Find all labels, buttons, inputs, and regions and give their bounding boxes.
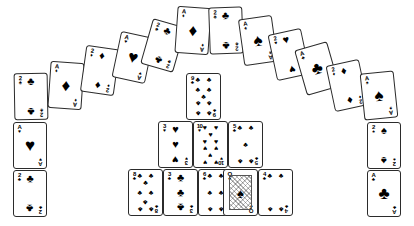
card-pip: ♣ <box>208 206 213 213</box>
card-pip: ♥ <box>208 131 212 138</box>
card-pip: ♦ <box>340 65 348 77</box>
card-board: 2♣2♣♣♣A♦A♦♦2♦2♦♦♦A♥A♥♥2♣2♣♣♣A♦A♦♦2♣2♣♣♣A… <box>0 0 414 226</box>
playing-card[interactable]: 2♣2♣♣♣ <box>13 170 47 217</box>
card-pip-layout: ♠ <box>369 74 389 116</box>
playing-card[interactable]: A♥A♥♥ <box>13 122 47 169</box>
card-pip: ♣ <box>208 189 213 196</box>
card-pip: ♦ <box>61 77 71 95</box>
card-pip: ♣ <box>378 185 389 202</box>
card-pip-layout: ♦ <box>57 64 76 106</box>
playing-card[interactable]: A♦A♦♦ <box>47 61 84 110</box>
card-pip: ♣ <box>268 172 273 179</box>
card-pip: ♥ <box>214 145 218 152</box>
card-pip: ♣ <box>201 93 206 100</box>
card-pip: ♥ <box>172 124 179 135</box>
card-pip-layout: ♣♣ <box>23 76 40 117</box>
card-pip: ♣ <box>208 172 213 179</box>
card-pip-layout: ♥♥♥ <box>167 124 184 165</box>
card-pip: ♣ <box>238 158 243 165</box>
card-pip: ♣ <box>162 25 172 38</box>
card-pip: ♣ <box>238 124 243 131</box>
card-pip: ♥ <box>172 139 179 150</box>
card-pip: ♣ <box>207 110 212 117</box>
playing-card[interactable]: 10♥10♥♥♥♥♥♥♥♥♥♥♥ <box>193 121 228 168</box>
card-pip: ♥ <box>208 152 212 159</box>
card-pip: ♣ <box>149 206 154 213</box>
playing-card[interactable]: A♣A♣♣ <box>367 170 401 217</box>
card-pip: ♥ <box>203 145 207 152</box>
card-pip-layout: ♣♣♣ <box>172 172 189 213</box>
card-pip-layout: ♥♥♥♥♥♥♥♥♥♥ <box>202 124 219 165</box>
card-pip: ♥ <box>214 159 218 166</box>
card-pip: ♥ <box>214 138 218 145</box>
card-pip: ♦ <box>99 50 106 62</box>
card-pip: ♣ <box>207 76 212 83</box>
playing-card[interactable]: 3♥3♥♥♥♥ <box>158 121 193 168</box>
card-suit-icon: ♠ <box>237 185 244 200</box>
card-pip: ♣ <box>26 173 33 184</box>
card-pip: ♣ <box>138 172 143 179</box>
card-pip-layout: ♣♣ <box>22 173 38 214</box>
card-pip-layout: ♣♣♣♣♣ <box>237 124 254 165</box>
playing-card[interactable]: 2♣2♣♣♣ <box>14 73 49 121</box>
card-pip: ♣ <box>249 158 254 165</box>
playing-card[interactable]: A♠A♠♠ <box>360 70 399 120</box>
card-pip-layout: ♥ <box>22 125 38 166</box>
card-pip: ♠ <box>381 155 387 166</box>
card-pip: ♠ <box>252 31 263 49</box>
card-pip-layout: ♣♣♣♣♣♣♣♣♣ <box>195 76 212 117</box>
card-pip: ♣ <box>138 206 143 213</box>
card-pip: ♦ <box>188 22 198 40</box>
card-pip: ♣ <box>268 206 273 213</box>
card-pip: ♣ <box>243 141 248 148</box>
card-pip: ♥ <box>214 124 218 131</box>
card-pip: ♥ <box>203 159 207 166</box>
playing-card[interactable]: A♦A♦♦ <box>174 6 211 55</box>
card-pip: ♣ <box>207 86 212 93</box>
card-pip-layout: ♠ <box>247 19 269 62</box>
card-pip: ♣ <box>279 206 284 213</box>
card-pip: ♣ <box>149 172 154 179</box>
card-pip: ♣ <box>177 202 184 213</box>
playing-card[interactable]: Q♠Q♠♠ <box>223 169 258 216</box>
card-pip-layout: ♦♦ <box>335 64 359 107</box>
card-pip: ♥ <box>282 34 291 46</box>
playing-card[interactable]: 8♣8♣♣♣♣♣♣♣♣♣ <box>128 169 163 216</box>
card-pip-layout: ♣♣♣♣♣♣♣♣ <box>137 172 154 213</box>
playing-card[interactable]: 3♣3♣♣♣♣ <box>163 169 198 216</box>
card-pip: ♣ <box>26 203 33 214</box>
card-pip: ♦ <box>346 94 354 106</box>
card-pip: ♣ <box>309 59 324 78</box>
card-pip: ♥ <box>288 63 297 75</box>
card-pip: ♣ <box>196 76 201 83</box>
card-pip: ♣ <box>143 179 148 186</box>
card-pip-layout: ♣ <box>376 173 392 214</box>
playing-card[interactable]: 4♣4♣♣♣♣♣ <box>258 169 293 216</box>
card-pip: ♣ <box>177 172 184 183</box>
card-pip: ♣ <box>223 40 231 51</box>
card-pip: ♥ <box>203 138 207 145</box>
playing-card[interactable]: 9♣9♣♣♣♣♣♣♣♣♣♣ <box>186 73 221 120</box>
card-pip: ♣ <box>196 86 201 93</box>
card-pip: ♥ <box>203 124 207 131</box>
card-pip-layout: ♣♣♣♣ <box>267 172 284 213</box>
card-pip: ♥ <box>172 154 179 165</box>
card-pip: ♠ <box>374 87 385 105</box>
card-pip: ♣ <box>138 189 143 196</box>
card-pip: ♥ <box>126 48 139 67</box>
card-pip: ♣ <box>249 124 254 131</box>
card-pip-layout: ♣♣ <box>217 10 234 52</box>
card-pip: ♣ <box>196 110 201 117</box>
card-pip: ♣ <box>154 54 164 67</box>
card-pip-layout: ♠♠ <box>376 125 392 166</box>
card-pip: ♣ <box>177 187 184 198</box>
playing-card[interactable]: 5♣5♣♣♣♣♣♣ <box>228 121 263 168</box>
card-pip: ♥ <box>25 137 35 154</box>
card-pip: ♣ <box>222 10 230 21</box>
card-pip: ♦ <box>94 80 101 92</box>
card-pip: ♣ <box>149 189 154 196</box>
card-pip: ♣ <box>196 100 201 107</box>
court-card-artwork: ♠ <box>229 175 252 210</box>
card-pip: ♣ <box>27 76 34 87</box>
playing-card[interactable]: 2♠2♠♠♠ <box>367 122 401 169</box>
